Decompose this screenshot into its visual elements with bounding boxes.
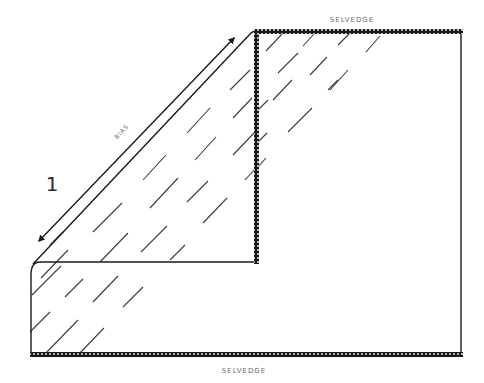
top-selvedge <box>255 29 463 34</box>
selvedge-bottom-label: SELVEDGE <box>222 367 266 375</box>
bias-label: BIAS <box>113 122 130 140</box>
bias-arrow-icon <box>39 38 234 241</box>
step-number: 1 <box>46 172 59 196</box>
fabric-outline <box>31 31 461 355</box>
bottom-selvedge <box>30 352 463 357</box>
fold-selvedge <box>254 29 259 264</box>
fabric-fold-diagram: SELVEDGE SELVEDGE BIAS 1 <box>0 0 484 383</box>
selvedge-top-label: SELVEDGE <box>330 16 374 24</box>
